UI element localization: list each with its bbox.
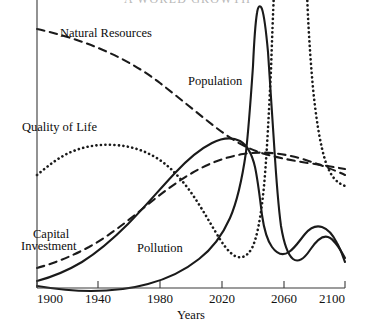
curve-capital-investment <box>37 153 345 268</box>
x-tick-label-2060: 2060 <box>271 291 297 306</box>
chart-plot-area: 1900 1940 1980 2020 2060 2100 Years Natu… <box>0 0 375 322</box>
x-tick-label-2100: 2100 <box>319 291 345 306</box>
series-label-pollution: Pollution <box>137 241 184 255</box>
x-tick-label-2020: 2020 <box>209 291 235 306</box>
series-label-population: Population <box>188 74 243 88</box>
series-label-natural-resources: Natural Resources <box>60 26 152 40</box>
curve-quality-of-life-recovery <box>307 0 345 186</box>
series-label-capital-investment-line2: Investment <box>21 239 77 253</box>
series-label-quality-of-life: Quality of Life <box>22 120 97 134</box>
x-tick-label-1900: 1900 <box>37 291 63 306</box>
x-axis-title: Years <box>177 308 205 322</box>
x-tick-label-1940: 1940 <box>85 291 111 306</box>
x-tick-label-1980: 1980 <box>147 291 173 306</box>
world-growth-chart: A WORLD GROWTH 1900 1940 1980 2020 2060 … <box>0 0 375 322</box>
